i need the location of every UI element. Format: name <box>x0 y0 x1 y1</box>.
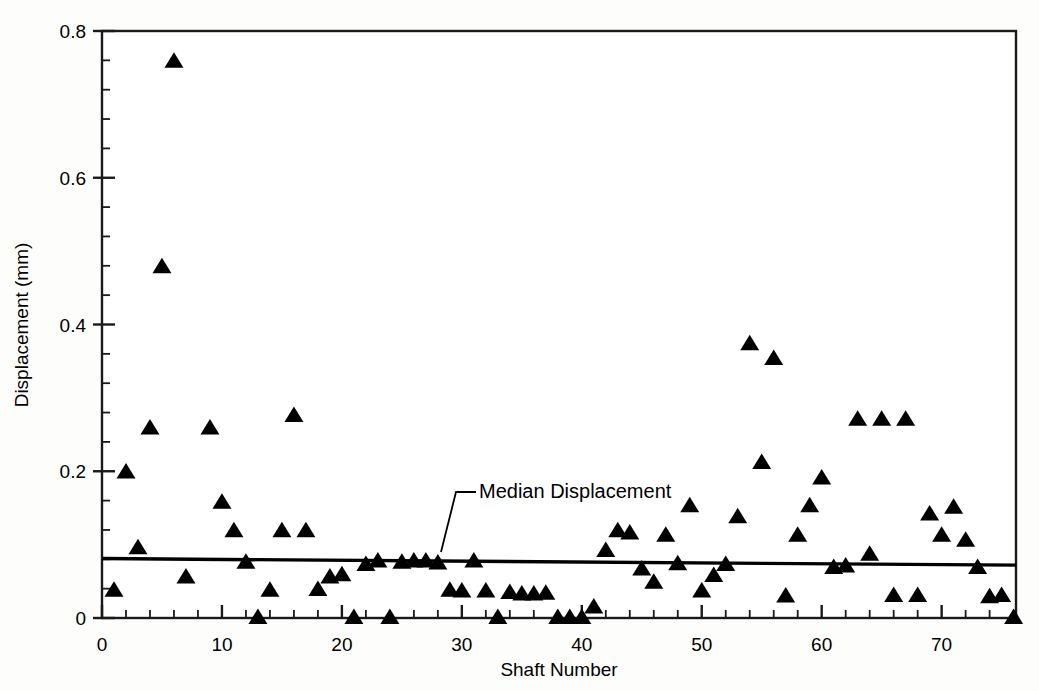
x-tick-label: 20 <box>331 634 352 655</box>
x-axis-title: Shaft Number <box>500 659 618 680</box>
x-tick-label: 50 <box>691 634 712 655</box>
y-tick-label: 0 <box>75 608 86 629</box>
plot-frame <box>102 31 1016 618</box>
y-tick-label: 0.4 <box>60 315 87 336</box>
x-tick-label: 0 <box>97 634 108 655</box>
x-tick-label: 10 <box>211 634 232 655</box>
y-axis-title: Displacement (mm) <box>11 243 32 408</box>
x-axis-tick-labels: 010203040506070 <box>97 634 952 655</box>
y-tick-label: 0.2 <box>60 461 86 482</box>
y-axis-tick-labels: 00.20.40.60.8 <box>60 21 87 629</box>
x-tick-label: 30 <box>451 634 472 655</box>
x-tick-label: 60 <box>811 634 832 655</box>
y-tick-label: 0.6 <box>60 168 86 189</box>
y-tick-label: 0.8 <box>60 21 86 42</box>
x-tick-label: 40 <box>571 634 592 655</box>
figure-container: 00.20.40.60.8 010203040506070 Median Dis… <box>0 0 1039 691</box>
scatter-chart: 00.20.40.60.8 010203040506070 Median Dis… <box>0 0 1039 691</box>
x-tick-label: 70 <box>931 634 952 655</box>
plot-area <box>102 31 1016 618</box>
median-displacement-label: Median Displacement <box>479 480 672 502</box>
